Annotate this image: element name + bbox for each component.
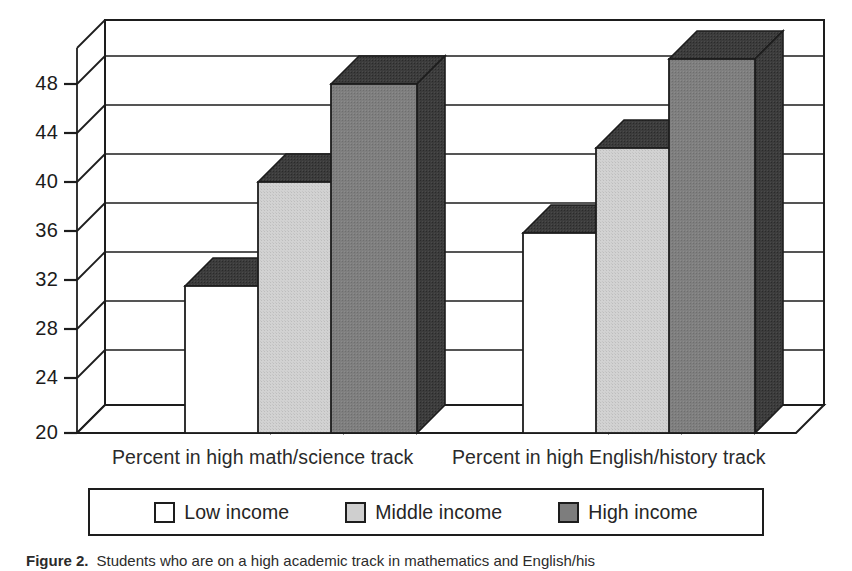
category-label-math-science: Percent in high math/science track bbox=[112, 446, 413, 469]
chart-y-ticks bbox=[64, 84, 77, 433]
legend-label-low-income: Low income bbox=[184, 501, 289, 524]
chart-left-wall bbox=[77, 20, 105, 433]
chart-plot-area: 48 44 40 36 32 28 24 20 bbox=[0, 0, 852, 448]
y-tick-label-20: 20 bbox=[8, 422, 58, 442]
legend-label-middle-income: Middle income bbox=[375, 501, 502, 524]
figure-caption: Figure 2.Students who are on a high acad… bbox=[26, 551, 852, 571]
y-tick-label-36: 36 bbox=[8, 220, 58, 240]
legend-item-middle-income[interactable]: Middle income bbox=[345, 501, 502, 524]
legend-item-low-income[interactable]: Low income bbox=[154, 501, 289, 524]
figure-caption-text: Students who are on a high academic trac… bbox=[97, 552, 596, 569]
y-tick-label-24: 24 bbox=[8, 367, 58, 387]
chart-legend: Low income Middle income High income bbox=[88, 488, 764, 536]
category-label-row: Percent in high math/science track Perce… bbox=[0, 446, 852, 476]
y-tick-label-28: 28 bbox=[8, 318, 58, 338]
y-tick-label-40: 40 bbox=[8, 171, 58, 191]
dark-gray-swatch bbox=[558, 502, 579, 523]
chart-svg bbox=[0, 0, 852, 448]
y-tick-label-48: 48 bbox=[8, 73, 58, 93]
y-tick-label-32: 32 bbox=[8, 269, 58, 289]
legend-label-high-income: High income bbox=[588, 501, 697, 524]
light-gray-swatch bbox=[345, 502, 366, 523]
category-label-english-history: Percent in high English/history track bbox=[452, 446, 766, 469]
y-tick-label-44: 44 bbox=[8, 122, 58, 142]
figure-caption-number: Figure 2. bbox=[26, 552, 89, 569]
white-swatch bbox=[154, 502, 175, 523]
bar-math-high-income[interactable] bbox=[331, 56, 445, 433]
bar-english-high-income[interactable] bbox=[669, 31, 783, 433]
legend-item-high-income[interactable]: High income bbox=[558, 501, 697, 524]
